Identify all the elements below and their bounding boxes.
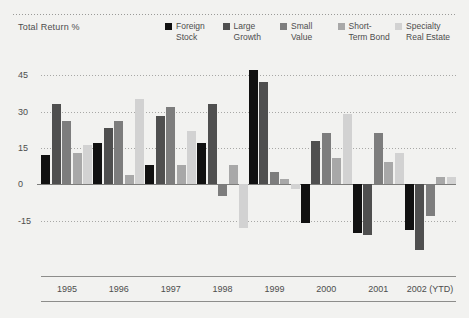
- bar[interactable]: [62, 121, 71, 184]
- bar[interactable]: [322, 133, 331, 184]
- legend-label: Foreign Stock: [176, 21, 205, 43]
- legend-swatch-icon: [395, 23, 402, 30]
- legend-item[interactable]: Specialty Real Estate: [395, 21, 461, 43]
- legend-item[interactable]: Small Value: [280, 21, 338, 43]
- bar[interactable]: [259, 82, 268, 184]
- legend-item[interactable]: Short- Term Bond: [338, 21, 396, 43]
- legend-swatch-icon: [280, 23, 287, 30]
- bar-group: [145, 63, 197, 257]
- bar[interactable]: [447, 177, 456, 184]
- bar[interactable]: [426, 184, 435, 216]
- bar[interactable]: [218, 184, 227, 196]
- axis-title: Total Return %: [18, 22, 80, 32]
- y-axis-tick-label: 30: [18, 107, 28, 117]
- header-divider: [13, 14, 456, 15]
- bar-group: [249, 63, 301, 257]
- bar[interactable]: [135, 99, 144, 184]
- bar-group: [352, 63, 404, 257]
- chart-root: Total Return % Foreign StockLarge Growth…: [0, 0, 469, 318]
- x-axis-tick-label: 1996: [93, 276, 145, 302]
- y-axis-tick-label: 0: [18, 179, 23, 189]
- bar[interactable]: [363, 184, 372, 235]
- bar-group: [300, 63, 352, 257]
- bar[interactable]: [125, 175, 134, 185]
- legend-swatch-icon: [165, 23, 172, 30]
- bar[interactable]: [114, 121, 123, 184]
- bar[interactable]: [104, 128, 113, 184]
- bar[interactable]: [41, 155, 50, 184]
- legend-label: Specialty Real Estate: [406, 21, 450, 43]
- bar[interactable]: [239, 184, 248, 228]
- x-axis-tick-label: 2001: [352, 276, 404, 302]
- bar[interactable]: [166, 107, 175, 185]
- bar[interactable]: [270, 172, 279, 184]
- x-axis: 19951996199719981999200020012002 (YTD): [41, 276, 456, 302]
- bar[interactable]: [343, 114, 352, 184]
- x-axis-labels: 19951996199719981999200020012002 (YTD): [41, 276, 456, 302]
- bar-group: [93, 63, 145, 257]
- bar[interactable]: [311, 141, 320, 185]
- legend-item[interactable]: Foreign Stock: [165, 21, 223, 43]
- bar[interactable]: [332, 158, 341, 185]
- legend-swatch-icon: [223, 23, 230, 30]
- bar[interactable]: [291, 184, 300, 189]
- bar[interactable]: [93, 143, 102, 184]
- bar[interactable]: [405, 184, 414, 230]
- bar[interactable]: [249, 70, 258, 184]
- bar[interactable]: [384, 162, 393, 184]
- bar[interactable]: [374, 133, 383, 184]
- x-axis-tick-label: 1998: [197, 276, 249, 302]
- x-axis-tick-label: 1995: [41, 276, 93, 302]
- bar-group: [41, 63, 93, 257]
- x-axis-tick-label: 2002 (YTD): [404, 276, 456, 302]
- bar[interactable]: [156, 116, 165, 184]
- bar[interactable]: [52, 104, 61, 184]
- bar[interactable]: [395, 153, 404, 185]
- x-axis-tick-label: 1999: [249, 276, 301, 302]
- bar[interactable]: [280, 179, 289, 184]
- bar[interactable]: [436, 177, 445, 184]
- legend-label: Small Value: [291, 21, 312, 43]
- plot-area: [41, 63, 456, 257]
- y-axis-tick-label: 45: [18, 70, 28, 80]
- bar[interactable]: [73, 153, 82, 185]
- bar-group: [197, 63, 249, 257]
- legend-label: Large Growth: [234, 21, 261, 43]
- bar[interactable]: [177, 165, 186, 184]
- x-axis-tick-label: 1997: [145, 276, 197, 302]
- legend-swatch-icon: [338, 23, 345, 30]
- y-axis-tick-label: 15: [18, 143, 28, 153]
- bar[interactable]: [83, 145, 92, 184]
- bar[interactable]: [187, 131, 196, 184]
- bar[interactable]: [197, 143, 206, 184]
- chart-legend: Foreign StockLarge GrowthSmall ValueShor…: [165, 21, 461, 43]
- bar[interactable]: [415, 184, 424, 249]
- bar[interactable]: [208, 104, 217, 184]
- bar[interactable]: [301, 184, 310, 223]
- bar-group: [404, 63, 456, 257]
- legend-item[interactable]: Large Growth: [223, 21, 281, 43]
- bar-groups: [41, 63, 456, 257]
- y-axis-tick-label: -15: [18, 216, 31, 226]
- bar[interactable]: [229, 165, 238, 184]
- bar[interactable]: [145, 165, 154, 184]
- legend-label: Short- Term Bond: [349, 21, 390, 43]
- bar[interactable]: [353, 184, 362, 233]
- x-axis-tick-label: 2000: [300, 276, 352, 302]
